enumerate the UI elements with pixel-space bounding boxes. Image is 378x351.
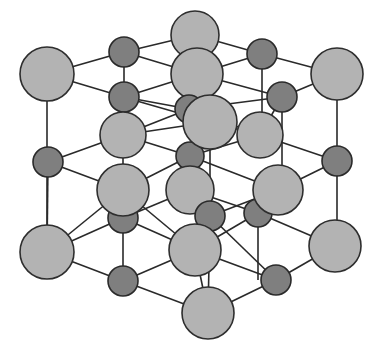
large-atom [309,220,361,272]
small-atom [322,146,352,176]
small-atom [33,147,63,177]
large-atom [182,287,234,339]
small-atom [247,39,277,69]
large-atom [237,112,283,158]
large-atom [20,47,74,101]
atoms-front-layer [20,164,361,339]
crystal-lattice-diagram [0,0,378,351]
small-atom [109,37,139,67]
small-atom [267,82,297,112]
large-atom [171,48,223,100]
large-atom [20,225,74,279]
large-atom [253,165,303,215]
small-atom [108,266,138,296]
large-atom [97,164,149,216]
small-atom [261,265,291,295]
large-atom [183,95,237,149]
large-atom [311,48,363,100]
lattice-canvas [0,0,378,351]
large-atom [169,224,221,276]
small-atom [109,82,139,112]
large-atom [100,112,146,158]
